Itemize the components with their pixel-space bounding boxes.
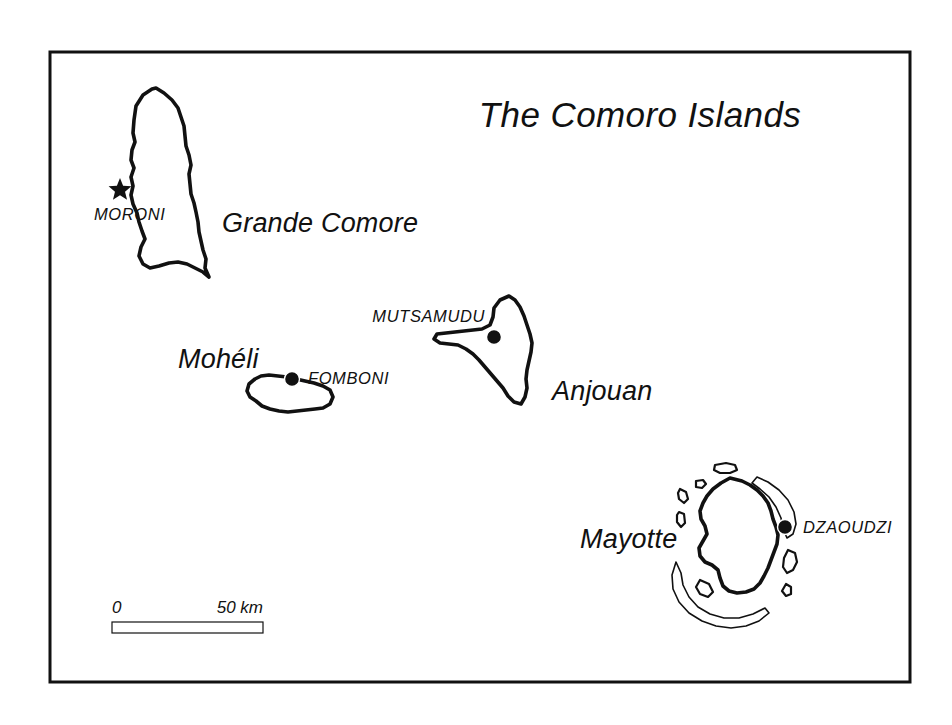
city-label-mutsamudu: MUTSAMUDU (372, 307, 485, 325)
map-title: The Comoro Islands (479, 95, 801, 134)
island-label-mayotte: Mayotte (580, 524, 677, 554)
city-label-fomboni: FOMBONI (308, 369, 389, 387)
island-label-moheli: Mohéli (178, 344, 260, 374)
scale-bar-start-label: 0 (112, 598, 122, 617)
dot-icon (778, 520, 793, 535)
island-label-grande-comore: Grande Comore (222, 208, 418, 238)
scale-bar-end-label: 50 km (217, 598, 263, 617)
island-label-anjouan: Anjouan (550, 376, 653, 406)
dot-icon (285, 372, 300, 387)
city-label-moroni: MORONI (94, 205, 165, 223)
comoro-islands-map-figure: The Comoro Islands Grande Comore Mohéli … (0, 0, 952, 725)
dot-icon (487, 330, 502, 345)
map-canvas: The Comoro Islands Grande Comore Mohéli … (0, 0, 952, 725)
city-label-dzaoudzi: DZAOUDZI (803, 518, 892, 536)
scale-bar-outline (112, 622, 263, 633)
